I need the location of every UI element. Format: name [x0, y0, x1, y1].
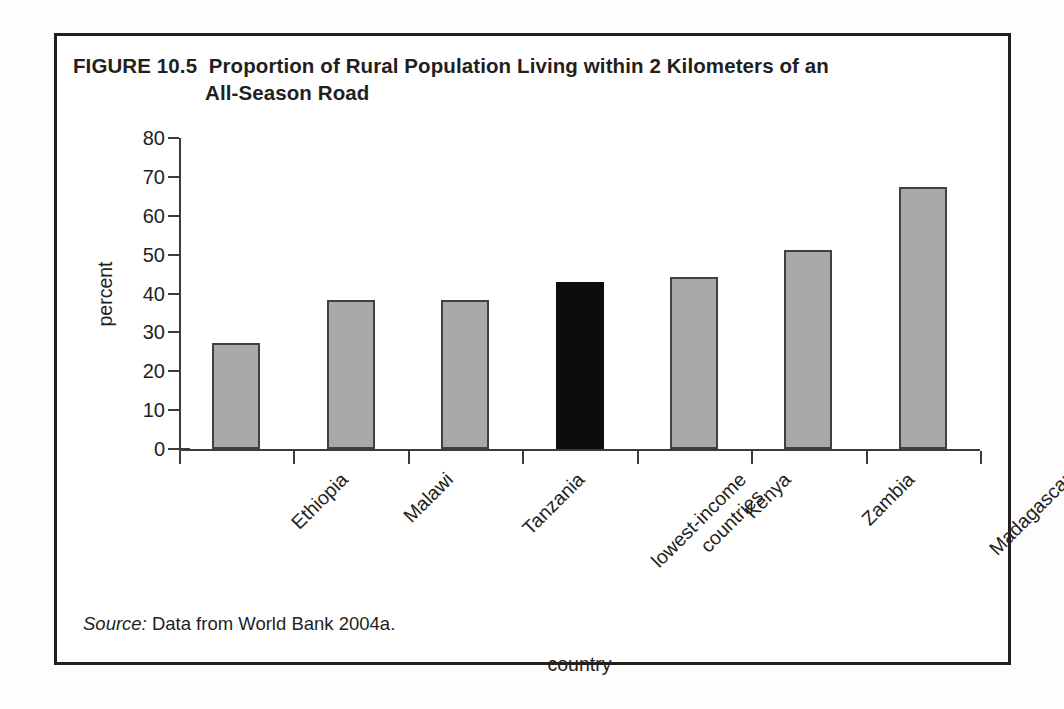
- x-axis-tick: [408, 451, 410, 464]
- x-axis-category-labels: EthiopiaMalawiTanzanialowest-incomecount…: [179, 468, 980, 618]
- x-axis-label-tanzania: Tanzania: [518, 468, 590, 540]
- y-axis-line: [179, 138, 181, 449]
- x-axis-line: [179, 449, 980, 451]
- x-axis-label-line: Zambia: [857, 468, 920, 531]
- y-axis-tick: [168, 448, 190, 450]
- y-axis-tick-label: 30: [119, 322, 165, 342]
- x-axis-label-line: Madagascar: [984, 468, 1064, 561]
- x-axis-tick: [637, 451, 639, 464]
- bar-madagascar: [899, 187, 947, 449]
- y-axis-tick-label: 20: [119, 361, 165, 381]
- x-axis-label-line: Malawi: [399, 468, 459, 528]
- x-axis-tick: [980, 451, 982, 464]
- y-axis-tick-label: 40: [119, 284, 165, 304]
- y-axis-tick: [168, 293, 179, 295]
- y-axis-tick: [168, 370, 179, 372]
- x-axis-label-zambia: Zambia: [857, 468, 920, 531]
- y-axis-tick-label: 50: [119, 245, 165, 265]
- y-axis-tick: [168, 215, 179, 217]
- chart-plot-region: 01020304050607080 percent EthiopiaMalawi…: [57, 36, 1014, 668]
- x-axis-title: country: [179, 653, 980, 676]
- figure-frame: FIGURE 10.5 Proportion of Rural Populati…: [54, 33, 1011, 665]
- x-axis-tick: [293, 451, 295, 464]
- y-axis-tick-label: 0: [119, 439, 165, 459]
- bar-ethiopia: [212, 343, 260, 449]
- y-axis-tick: [168, 254, 179, 256]
- y-axis-tick-label: 70: [119, 167, 165, 187]
- y-axis-tick: [168, 176, 179, 178]
- y-axis-title: percent: [94, 261, 117, 326]
- x-axis-label-malawi: Malawi: [399, 468, 459, 528]
- y-axis-tick: [168, 409, 179, 411]
- bar-zambia: [784, 250, 832, 449]
- x-axis-tick: [522, 451, 524, 464]
- bar-kenya: [670, 277, 718, 449]
- screenshot-page: FIGURE 10.5 Proportion of Rural Populati…: [0, 0, 1064, 709]
- x-axis-label-ethiopia: Ethiopia: [287, 468, 354, 535]
- y-axis-tick-label: 80: [119, 128, 165, 148]
- x-axis-label-madagascar: Madagascar: [984, 468, 1064, 561]
- x-axis-label-line: Tanzania: [518, 468, 590, 540]
- source-text: Data from World Bank 2004a.: [152, 613, 395, 634]
- y-axis-tick: [168, 331, 179, 333]
- x-axis-tick: [866, 451, 868, 464]
- bar-malawi: [327, 300, 375, 449]
- plot-area: 01020304050607080 percent EthiopiaMalawi…: [179, 138, 980, 449]
- source-label: Source:: [83, 613, 147, 634]
- x-axis-tick: [179, 451, 181, 464]
- y-axis-tick-label: 10: [119, 400, 165, 420]
- bar-tanzania: [441, 300, 489, 449]
- y-axis-tick-label: 60: [119, 206, 165, 226]
- source-note: Source: Data from World Bank 2004a.: [83, 613, 395, 635]
- y-axis-tick: [168, 137, 179, 139]
- x-axis-label-line: Ethiopia: [287, 468, 354, 535]
- x-axis-label-lowest-income-countries: lowest-incomecountries: [647, 468, 769, 590]
- bar-lowest-income-countries: [556, 282, 604, 449]
- x-axis-tick: [751, 451, 753, 464]
